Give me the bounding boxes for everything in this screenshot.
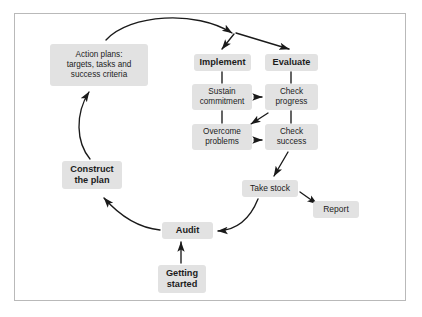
node-overcome-problems[interactable]: Overcome problems — [192, 124, 252, 150]
node-sustain-commitment[interactable]: Sustain commitment — [192, 84, 252, 110]
node-evaluate[interactable]: Evaluate — [265, 54, 318, 71]
connector-action-plans-to-fork — [106, 18, 232, 40]
node-check-progress[interactable]: Check progress — [265, 84, 318, 110]
connector-check-progress-to-overcome — [251, 113, 268, 124]
connector-take-stock-to-audit — [218, 199, 258, 231]
node-report[interactable]: Report — [313, 201, 359, 218]
node-audit[interactable]: Audit — [162, 222, 213, 239]
node-action-plans[interactable]: Action plans: targets, tasks and success… — [50, 44, 148, 86]
connector-check-success-to-take-stock — [274, 152, 288, 176]
connector-fork-to-evaluate — [236, 33, 289, 49]
connector-audit-to-construct — [104, 198, 160, 230]
connector-fork-to-implement — [222, 34, 234, 49]
node-construct-the-plan[interactable]: Construct the plan — [62, 161, 122, 189]
node-getting-started[interactable]: Getting started — [158, 265, 206, 293]
node-take-stock[interactable]: Take stock — [242, 180, 298, 197]
connector-construct-to-action-plans — [79, 92, 90, 159]
node-check-success[interactable]: Check success — [265, 124, 318, 150]
node-implement[interactable]: Implement — [194, 54, 251, 71]
diagram-canvas: Action plans: targets, tasks and success… — [0, 0, 422, 317]
